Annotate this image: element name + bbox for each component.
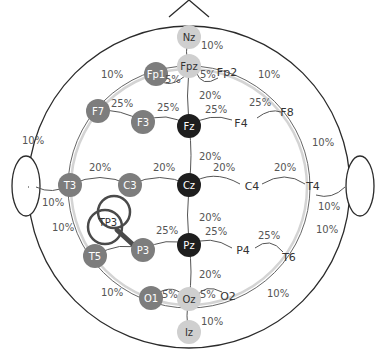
electrode-label: Iz	[185, 327, 193, 338]
electrode-o2: O2	[220, 290, 236, 303]
electrode-label: Cz	[183, 180, 195, 191]
electrode-pz: Pz	[177, 233, 201, 257]
left-ear-icon	[12, 156, 40, 216]
electrode-nz: Nz	[177, 25, 201, 49]
electrode-label: Nz	[183, 32, 196, 43]
distance-percent-label: 20%	[153, 162, 175, 173]
electrode-label: F7	[92, 106, 104, 117]
distance-percent-label: 10%	[201, 40, 223, 51]
distance-percent-label: 20%	[199, 269, 221, 280]
distance-percent-label: 25%	[249, 97, 271, 108]
distance-percent-label: 25%	[258, 230, 280, 241]
distance-percent-label: 10%	[101, 69, 123, 80]
electrode-f3: F3	[131, 110, 155, 134]
electrode-oz: Oz	[177, 287, 201, 311]
distance-percent-label: 25%	[111, 98, 133, 109]
distance-percent-label: 20%	[199, 151, 221, 162]
electrode-p4: P4	[236, 244, 250, 257]
electrode-label: T5	[88, 251, 101, 262]
electrode-t5: T5	[83, 244, 107, 268]
electrode-label: Fp1	[147, 69, 165, 80]
electrode-fp2: Fp2	[217, 66, 237, 79]
electrode-label: F3	[137, 117, 149, 128]
distance-percent-label: 5%	[200, 289, 216, 300]
electrode-label-tp3: TP3	[98, 217, 118, 228]
electrode-o1: O1	[139, 286, 163, 310]
distance-percent-label: 10%	[318, 201, 340, 212]
electrode-fz: Fz	[177, 114, 201, 138]
electrode-cz: Cz	[177, 173, 201, 197]
distance-percent-label: 10%	[267, 288, 289, 299]
electrode-label: Fz	[183, 121, 194, 132]
distance-percent-label: 25%	[205, 104, 227, 115]
distance-percent-label: 20%	[89, 162, 111, 173]
electrode-f7: F7	[86, 99, 110, 123]
electrode-label: Fpz	[180, 61, 197, 72]
eeg-electrode-diagram: NzFpzFp1F7F3FzT3C3CzP3PzT5O1OzIzTP3 Fp2F…	[0, 0, 381, 355]
distance-percent-label: 10%	[312, 137, 334, 148]
distance-percent-label: 25%	[156, 225, 178, 236]
electrode-t3: T3	[58, 173, 82, 197]
electrode-c4: C4	[245, 180, 260, 193]
electrode-c3: C3	[118, 173, 142, 197]
distance-percent-label: 5%	[200, 69, 216, 80]
distance-percent-label: 20%	[213, 162, 235, 173]
distance-percent-label: 20%	[274, 162, 296, 173]
nose-icon	[169, 0, 209, 17]
distance-percent-label: 10%	[201, 316, 223, 327]
electrode-label: T3	[63, 180, 76, 191]
distance-percent-label: 20%	[199, 90, 221, 101]
distance-percent-label: 10%	[101, 287, 123, 298]
electrode-label: Pz	[183, 240, 194, 251]
electrode-f4: F4	[234, 117, 247, 130]
distance-percent-label: 10%	[52, 222, 74, 233]
electrode-label: C3	[123, 180, 136, 191]
electrode-f8: F8	[280, 106, 293, 119]
distance-percent-label: 10%	[42, 197, 64, 208]
electrode-iz: Iz	[177, 320, 201, 344]
electrode-label: O1	[144, 293, 158, 304]
electrode-t6: T6	[281, 251, 296, 264]
distance-percent-label: 25%	[157, 102, 179, 113]
distance-percent-label: 5%	[162, 289, 178, 300]
electrode-label: P3	[137, 245, 149, 256]
distance-percent-label: 10%	[258, 69, 280, 80]
distance-percent-label: 5%	[165, 74, 181, 85]
distance-percent-label: 25%	[205, 226, 227, 237]
distance-percent-label: 10%	[316, 224, 338, 235]
electrode-t4: T4	[305, 180, 320, 193]
electrode-p3: P3	[131, 238, 155, 262]
right-ear-icon	[346, 156, 374, 216]
electrode-label: Oz	[182, 294, 195, 305]
distance-percent-label: 20%	[199, 212, 221, 223]
distance-percent-label: 10%	[22, 135, 44, 146]
